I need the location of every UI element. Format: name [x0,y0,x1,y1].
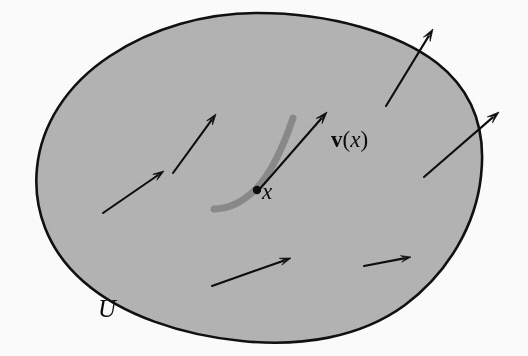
region-label-U: U [98,296,116,321]
vector-field-symbol: v [331,127,343,152]
point-x-marker [253,186,261,194]
field-arrow-3-head [423,29,433,41]
vector-field-diagram [0,0,528,356]
vector-field-argument: x [350,127,360,152]
figure-canvas: v(x) x U [0,0,528,356]
open-set-region-U [36,13,482,343]
vector-field-close-paren: ) [360,127,368,152]
vector-field-label: v(x) [331,128,368,151]
point-label-x: x [262,180,272,203]
